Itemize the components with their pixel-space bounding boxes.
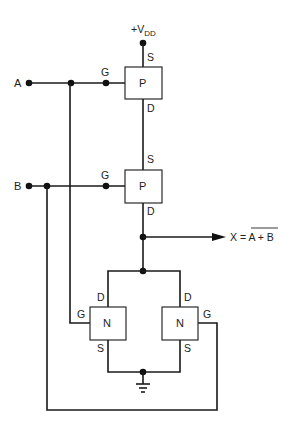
n2-type-label: N bbox=[176, 317, 184, 329]
p1-gate-label: G bbox=[101, 66, 109, 78]
input-a-to-n1-gate-wire bbox=[70, 83, 90, 323]
output-expression: A + B bbox=[248, 231, 273, 243]
n2-source-label: S bbox=[184, 342, 191, 354]
n1-gate-label: G bbox=[77, 308, 85, 320]
output-label: X = A + B bbox=[230, 231, 274, 243]
p2-drain-label: D bbox=[147, 205, 155, 217]
p2-gate-label: G bbox=[101, 169, 109, 181]
input-a-junction bbox=[68, 80, 75, 87]
input-b-label: B bbox=[14, 180, 21, 192]
ground-icon bbox=[136, 372, 150, 392]
p1-gate-terminal bbox=[103, 80, 110, 87]
n1-drain-label: D bbox=[97, 291, 105, 303]
p1-source-label: S bbox=[147, 51, 154, 63]
p1-type-label: P bbox=[139, 77, 146, 89]
vdd-label: +VDD bbox=[131, 23, 156, 38]
output-arrow-icon bbox=[212, 233, 226, 241]
p2-type-label: P bbox=[139, 180, 146, 192]
p2-gate-terminal bbox=[103, 183, 110, 190]
nmos-source-bus bbox=[108, 340, 180, 372]
nmos-drain-bus bbox=[108, 271, 180, 307]
n2-drain-label: D bbox=[184, 291, 192, 303]
n1-type-label: N bbox=[103, 317, 111, 329]
p1-drain-label: D bbox=[147, 102, 155, 114]
n2-gate-label: G bbox=[203, 308, 211, 320]
input-a-label: A bbox=[14, 77, 22, 89]
cmos-nor-schematic: +VDD S P D G S P D G A B X = A + B D N G… bbox=[0, 0, 294, 421]
p2-source-label: S bbox=[147, 153, 154, 165]
n1-source-label: S bbox=[97, 342, 104, 354]
